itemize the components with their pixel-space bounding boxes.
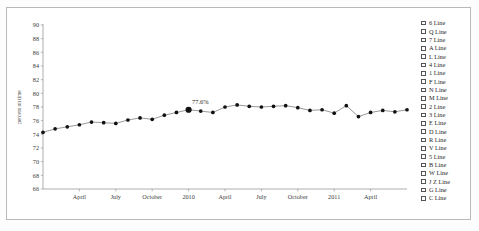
legend-item[interactable]: A Line <box>421 44 479 52</box>
checkbox-icon[interactable] <box>421 154 426 159</box>
checkbox-icon[interactable] <box>421 121 426 126</box>
checkbox-icon[interactable] <box>421 188 426 193</box>
legend-item[interactable]: C Line <box>421 194 479 202</box>
legend-item[interactable]: R Line <box>421 136 479 144</box>
data-point[interactable] <box>53 127 57 131</box>
checkbox-icon[interactable] <box>421 129 426 134</box>
data-point[interactable] <box>260 105 264 109</box>
legend-item[interactable]: 4 Line <box>421 61 479 69</box>
data-point[interactable] <box>381 109 385 113</box>
checkbox-icon[interactable] <box>421 96 426 101</box>
legend-item[interactable]: 2 Line <box>421 102 479 110</box>
legend-item[interactable]: E Line <box>421 119 479 127</box>
legend-item[interactable]: B Line <box>421 161 479 169</box>
legend-item[interactable]: 6 Line <box>421 19 479 27</box>
legend-item[interactable]: G Line <box>421 186 479 194</box>
x-tick-label: April <box>364 193 377 200</box>
y-tick-label: 78 <box>33 103 39 110</box>
data-point-annotation: 77.6% <box>192 98 209 105</box>
data-point[interactable] <box>199 109 203 113</box>
data-point[interactable] <box>78 123 82 127</box>
checkbox-icon[interactable] <box>421 171 426 176</box>
legend-item-label: C Line <box>429 194 446 202</box>
chart-screenshot: 90888684828078767472706866percent on tim… <box>0 0 479 231</box>
legend-item[interactable]: 3 Line <box>421 111 479 119</box>
data-point[interactable] <box>41 130 45 134</box>
chart-frame: 90888684828078767472706866percent on tim… <box>6 7 471 220</box>
data-point[interactable] <box>211 111 215 115</box>
legend-item-label: A Line <box>429 44 446 52</box>
data-point[interactable] <box>308 109 312 113</box>
legend-panel[interactable]: 6 LineQ Line7 LineA LineL Line4 Line1 Li… <box>421 19 479 203</box>
y-tick-label: 76 <box>33 117 39 124</box>
legend-item[interactable]: 1 Line <box>421 69 479 77</box>
series-line <box>43 105 407 132</box>
checkbox-icon[interactable] <box>421 38 426 43</box>
data-point[interactable] <box>223 105 227 109</box>
data-point[interactable] <box>320 108 324 112</box>
checkbox-icon[interactable] <box>421 79 426 84</box>
checkbox-icon[interactable] <box>421 46 426 51</box>
data-point[interactable] <box>247 104 251 108</box>
legend-item-label: B Line <box>429 161 446 169</box>
checkbox-icon[interactable] <box>421 54 426 59</box>
y-tick-label: 74 <box>33 131 39 138</box>
legend-item[interactable]: 5 Line <box>421 153 479 161</box>
checkbox-icon[interactable] <box>421 104 426 109</box>
legend-item[interactable]: J Z Line <box>421 178 479 186</box>
data-point[interactable] <box>284 104 288 108</box>
checkbox-icon[interactable] <box>421 29 426 34</box>
legend-item[interactable]: V Line <box>421 144 479 152</box>
data-point[interactable] <box>138 116 142 120</box>
y-tick-label: 90 <box>33 21 39 28</box>
y-tick-label: 70 <box>33 158 39 165</box>
data-point[interactable] <box>332 111 336 115</box>
data-point[interactable] <box>235 103 239 107</box>
legend-item-label: Q Line <box>429 28 447 36</box>
legend-item[interactable]: N Line <box>421 86 479 94</box>
checkbox-icon[interactable] <box>421 113 426 118</box>
checkbox-icon[interactable] <box>421 196 426 201</box>
checkbox-icon[interactable] <box>421 21 426 26</box>
x-tick-label: October <box>288 193 308 200</box>
checkbox-icon[interactable] <box>421 146 426 151</box>
data-point[interactable] <box>102 121 106 125</box>
legend-item[interactable]: M Line <box>421 94 479 102</box>
legend-item[interactable]: W Line <box>421 169 479 177</box>
data-point[interactable] <box>162 113 166 117</box>
data-point[interactable] <box>393 110 397 114</box>
checkbox-icon[interactable] <box>421 63 426 68</box>
checkbox-icon[interactable] <box>421 179 426 184</box>
data-point[interactable] <box>126 118 130 122</box>
legend-item-label: F Line <box>429 78 446 86</box>
legend-item[interactable]: 7 Line <box>421 36 479 44</box>
legend-item[interactable]: Q Line <box>421 27 479 35</box>
legend-item[interactable]: L Line <box>421 52 479 60</box>
data-point[interactable] <box>369 111 373 115</box>
legend-item-label: 1 Line <box>429 69 445 77</box>
data-point[interactable] <box>344 104 348 108</box>
data-point[interactable] <box>296 106 300 110</box>
line-chart-svg: 90888684828078767472706866percent on tim… <box>7 8 411 221</box>
legend-item-label: 4 Line <box>429 61 445 69</box>
checkbox-icon[interactable] <box>421 163 426 168</box>
data-point[interactable] <box>405 108 409 112</box>
legend-item[interactable]: D Line <box>421 127 479 135</box>
data-point[interactable] <box>114 122 118 126</box>
data-point[interactable] <box>357 115 361 119</box>
data-point[interactable] <box>90 120 94 124</box>
checkbox-icon[interactable] <box>421 88 426 93</box>
data-point[interactable] <box>175 111 179 115</box>
legend-item-label: 6 Line <box>429 19 445 27</box>
checkbox-icon[interactable] <box>421 138 426 143</box>
data-point[interactable] <box>150 117 154 121</box>
x-tick-label: July <box>111 193 122 200</box>
data-point[interactable] <box>272 104 276 108</box>
legend-item[interactable]: F Line <box>421 77 479 85</box>
data-point[interactable] <box>65 125 69 129</box>
legend-item-label: J Z Line <box>429 178 450 186</box>
highlighted-data-point[interactable] <box>186 107 192 113</box>
legend-item-label: G Line <box>429 186 447 194</box>
checkbox-icon[interactable] <box>421 71 426 76</box>
y-tick-label: 68 <box>33 172 39 179</box>
